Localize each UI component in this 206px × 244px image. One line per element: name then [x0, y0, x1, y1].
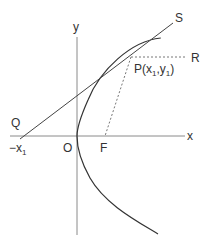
- label-P: P(x1,y1): [134, 62, 174, 78]
- label-P-mid: ,y: [156, 62, 165, 76]
- label-P-main: P(x: [134, 62, 152, 76]
- label-F: F: [100, 141, 107, 155]
- parabola-diagram: y x S R P(x1,y1) Q −x1 O F: [0, 0, 206, 244]
- label-O: O: [63, 141, 72, 155]
- label-R: R: [191, 51, 200, 65]
- label-neg-x1: −x1: [9, 141, 27, 157]
- label-neg-x1-sub: 1: [22, 148, 27, 157]
- label-x: x: [187, 129, 193, 143]
- label-neg-x1-main: −x: [9, 141, 22, 155]
- label-P-end: ): [170, 62, 174, 76]
- label-Q: Q: [11, 116, 20, 130]
- label-y: y: [73, 20, 79, 34]
- label-S: S: [175, 11, 183, 25]
- tangent-line: [20, 23, 173, 139]
- dashed-line-PF: [105, 57, 131, 136]
